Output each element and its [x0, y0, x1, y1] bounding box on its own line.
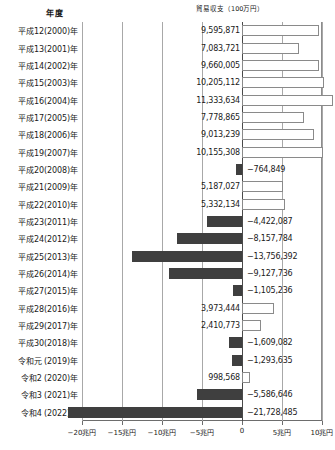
bar-value-label: −8,157,784 — [247, 230, 335, 247]
bar-negative — [177, 233, 242, 244]
value-column-header: 貿易収支（100万円） — [196, 3, 264, 13]
bar-positive — [242, 43, 299, 54]
chart-row: 平成21(2009)年5,187,027 — [0, 178, 335, 195]
bar-negative — [207, 216, 242, 227]
axis-tick — [162, 421, 163, 425]
bar-value-label: 9,660,005 — [0, 57, 240, 74]
axis-tick-label: −5兆円 — [190, 427, 214, 437]
bar-value-label: 9,595,871 — [0, 22, 240, 39]
axis-tick-label: 10兆円 — [311, 427, 334, 437]
bar-positive — [242, 112, 304, 123]
axis-tick — [242, 421, 243, 425]
bar-positive — [242, 181, 283, 192]
bar-positive — [242, 199, 285, 210]
axis-tick-label: −20兆円 — [68, 427, 97, 437]
chart-row: 平成16(2004)年11,333,634 — [0, 91, 335, 108]
row-year-label: 平成26(2014)年 — [0, 265, 78, 282]
row-year-label: 令和3 (2021)年 — [0, 386, 78, 403]
axis-tick-label: −10兆円 — [148, 427, 177, 437]
bar-value-label: 9,013,239 — [0, 126, 240, 143]
bar-positive — [242, 372, 250, 383]
chart-row: 平成14(2002)年9,660,005 — [0, 57, 335, 74]
row-year-label: 平成24(2012)年 — [0, 230, 78, 247]
chart-row: 平成24(2012)年−8,157,784 — [0, 230, 335, 247]
bar-value-label: 3,973,444 — [0, 300, 240, 317]
bar-positive — [242, 129, 314, 140]
bar-value-label: −1,609,082 — [247, 334, 335, 351]
bar-negative — [233, 285, 242, 296]
bar-positive — [242, 25, 319, 36]
axis-tick — [82, 421, 83, 425]
row-year-label: 令和4 (2022)年 — [0, 404, 78, 421]
row-year-label: 平成23(2011)年 — [0, 213, 78, 230]
chart-row: 平成18(2006)年9,013,239 — [0, 126, 335, 143]
bar-positive — [242, 95, 333, 106]
bar-value-label: 5,187,027 — [0, 178, 240, 195]
bar-value-label: 998,568 — [0, 369, 240, 386]
trade-balance-bar-chart: 年度 貿易収支（100万円） 平成12(2000)年9,595,871平成13(… — [0, 0, 335, 450]
chart-row: 令和元 (2019)年−1,293,635 — [0, 352, 335, 369]
bar-value-label: 11,333,634 — [0, 91, 240, 108]
axis-tick — [282, 421, 283, 425]
bar-negative — [232, 355, 242, 366]
axis-tick — [122, 421, 123, 425]
chart-row: 平成27(2015)年−1,105,236 — [0, 282, 335, 299]
axis-tick-label: −15兆円 — [108, 427, 137, 437]
bar-positive — [242, 320, 261, 331]
bar-positive — [242, 77, 324, 88]
row-year-label: 平成20(2008)年 — [0, 161, 78, 178]
bar-positive — [242, 303, 274, 314]
chart-row: 平成23(2011)年−4,422,087 — [0, 213, 335, 230]
bar-positive — [242, 60, 319, 71]
chart-row: 平成26(2014)年−9,127,736 — [0, 265, 335, 282]
bar-negative — [236, 164, 242, 175]
chart-row: 平成17(2005)年7,778,865 — [0, 109, 335, 126]
chart-row: 令和4 (2022)年−21,728,485 — [0, 404, 335, 421]
bar-value-label: 10,155,308 — [0, 143, 240, 160]
row-year-label: 平成30(2018)年 — [0, 334, 78, 351]
bar-value-label: 10,205,112 — [0, 74, 240, 91]
bar-value-label: 7,083,721 — [0, 39, 240, 56]
bar-value-label: −4,422,087 — [247, 213, 335, 230]
chart-row: 令和2 (2020)年998,568 — [0, 369, 335, 386]
bar-negative — [169, 268, 242, 279]
bar-negative — [68, 407, 242, 418]
axis-tick — [322, 421, 323, 425]
bar-value-label: −9,127,736 — [247, 265, 335, 282]
chart-row: 平成20(2008)年−764,849 — [0, 161, 335, 178]
row-year-label: 平成27(2015)年 — [0, 282, 78, 299]
bar-value-label: −764,849 — [247, 161, 335, 178]
bar-value-label: 7,778,865 — [0, 109, 240, 126]
bar-negative — [197, 389, 242, 400]
chart-row: 平成15(2003)年10,205,112 — [0, 74, 335, 91]
bar-value-label: −1,293,635 — [247, 352, 335, 369]
bar-value-label: −1,105,236 — [247, 282, 335, 299]
axis-tick-label: 0 — [240, 427, 244, 435]
bar-value-label: 2,410,773 — [0, 317, 240, 334]
chart-row: 平成22(2010)年5,332,134 — [0, 195, 335, 212]
chart-row: 平成19(2007)年10,155,308 — [0, 143, 335, 160]
row-year-label: 平成25(2013)年 — [0, 248, 78, 265]
chart-row: 平成29(2017)年2,410,773 — [0, 317, 335, 334]
chart-row: 令和3 (2021)年−5,586,646 — [0, 386, 335, 403]
bar-negative — [229, 337, 242, 348]
axis-tick — [202, 421, 203, 425]
chart-row: 平成12(2000)年9,595,871 — [0, 22, 335, 39]
year-column-header: 年度 — [46, 7, 63, 18]
chart-row: 平成28(2016)年3,973,444 — [0, 300, 335, 317]
row-year-label: 令和元 (2019)年 — [0, 352, 78, 369]
chart-row: 平成25(2013)年−13,756,392 — [0, 248, 335, 265]
chart-row: 平成13(2001)年7,083,721 — [0, 39, 335, 56]
bar-value-label: 5,332,134 — [0, 195, 240, 212]
bar-value-label: −5,586,646 — [247, 386, 335, 403]
bar-positive — [242, 147, 323, 158]
bar-negative — [132, 251, 242, 262]
bar-value-label: −13,756,392 — [247, 248, 335, 265]
chart-row: 平成30(2018)年−1,609,082 — [0, 334, 335, 351]
axis-tick-label: 5兆円 — [273, 427, 291, 437]
bar-value-label: −21,728,485 — [247, 404, 335, 421]
